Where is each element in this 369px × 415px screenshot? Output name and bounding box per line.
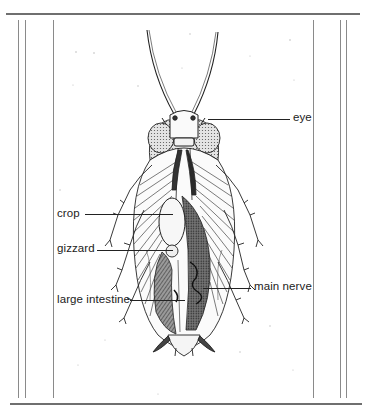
gizzard-leader-line [97,250,173,251]
label-gizzard: gizzard [57,243,95,255]
cockroach-illustration [0,0,369,415]
crop-organ [159,198,185,246]
label-main-nerve: main nerve [254,281,312,293]
label-crop: crop [57,208,80,220]
large-intestine-leader-line [130,300,185,301]
antennae [147,30,218,114]
crop-leader-line [85,214,173,215]
label-large-intestine: large intestine [57,294,130,306]
label-eye: eye [293,112,312,124]
main-nerve-leader-line [203,288,251,289]
eye-leader-line [208,119,290,120]
